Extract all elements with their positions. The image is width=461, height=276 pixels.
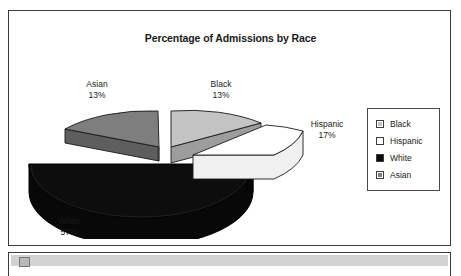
legend-label-asian: Asian xyxy=(390,170,411,180)
slice-label-hispanic: Hispanic 17% xyxy=(299,119,355,141)
slice-label-asian-name: Asian xyxy=(86,79,107,89)
chart-legend: Black Hispanic White Asian xyxy=(367,108,440,191)
legend-item-black: Black xyxy=(368,115,439,132)
legend-swatch-white-icon xyxy=(376,154,384,162)
legend-label-hispanic: Hispanic xyxy=(390,136,423,146)
slice-label-white: White 57% xyxy=(45,216,93,238)
legend-item-hispanic: Hispanic xyxy=(368,132,439,149)
secondary-panel-swatch-icon xyxy=(19,257,30,267)
chart-figure-frame: Percentage of Admissions by Race xyxy=(8,10,451,246)
legend-label-white: White xyxy=(390,153,412,163)
slice-label-hispanic-name: Hispanic xyxy=(311,119,344,129)
slice-label-white-name: White xyxy=(58,216,80,226)
slice-label-asian-value: 13% xyxy=(73,90,121,101)
slice-label-white-value: 57% xyxy=(45,227,93,238)
slice-label-black: Black 13% xyxy=(197,79,245,101)
legend-swatch-hispanic-icon xyxy=(376,137,384,145)
slice-label-asian: Asian 13% xyxy=(73,79,121,101)
legend-swatch-asian-icon xyxy=(376,171,384,179)
secondary-panel-header-band xyxy=(11,255,448,266)
legend-label-black: Black xyxy=(390,119,411,129)
legend-swatch-black-icon xyxy=(376,120,384,128)
slice-label-hispanic-value: 17% xyxy=(299,130,355,141)
secondary-panel-frame xyxy=(8,252,451,276)
legend-item-white: White xyxy=(368,149,439,166)
pie-slice-asian xyxy=(65,111,159,161)
slice-label-black-value: 13% xyxy=(197,90,245,101)
legend-item-asian: Asian xyxy=(368,166,439,183)
slice-label-black-name: Black xyxy=(211,79,232,89)
